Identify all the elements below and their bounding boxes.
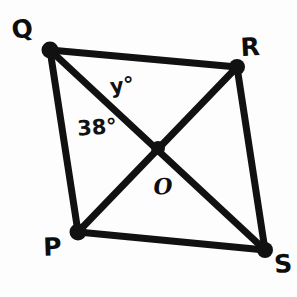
geometry-figure: Q R P S O y° 38° xyxy=(0,0,297,297)
vertex-label-q: Q xyxy=(10,15,35,43)
vertex-label-p: P xyxy=(43,234,62,260)
edge-rs xyxy=(237,67,265,250)
vertex-label-s: S xyxy=(273,251,292,277)
angle-label-y: y° xyxy=(109,74,135,97)
intersection-dot-o xyxy=(151,141,165,155)
edge-qr xyxy=(50,50,237,67)
intersection-label-o: O xyxy=(153,174,174,197)
vertex-label-r: R xyxy=(240,34,260,60)
edge-sp xyxy=(78,232,265,250)
vertex-dot-q xyxy=(42,42,59,59)
angle-label-38: 38° xyxy=(76,116,117,140)
vertex-dot-s xyxy=(257,242,273,258)
edge-pq xyxy=(50,50,78,232)
vertex-dot-p xyxy=(70,224,87,241)
